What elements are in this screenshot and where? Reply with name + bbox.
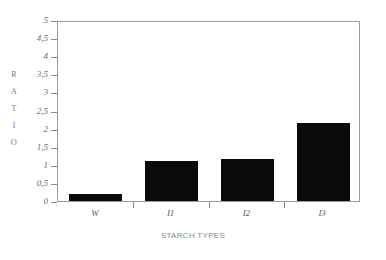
y-axis-tick-label: 2 bbox=[2, 125, 48, 134]
y-axis-tick-label: 3,5 bbox=[2, 70, 48, 79]
x-axis-category-label: I3 bbox=[292, 207, 352, 219]
x-axis-tick bbox=[284, 202, 285, 208]
bar bbox=[145, 161, 198, 201]
y-axis-tick-label: 5 bbox=[2, 16, 48, 25]
y-axis-tick-label: 4,5 bbox=[2, 34, 48, 43]
y-axis-tick-label: 1,5 bbox=[2, 143, 48, 152]
y-axis-tick-label: 2,5 bbox=[2, 107, 48, 116]
x-axis-category-label: W bbox=[65, 207, 125, 219]
y-axis-tick-label: 3 bbox=[2, 88, 48, 97]
x-axis-tick bbox=[209, 202, 210, 208]
bar bbox=[221, 159, 274, 201]
x-axis-tick bbox=[133, 202, 134, 208]
x-axis-title: STARCH TYPES bbox=[0, 231, 386, 240]
y-axis-tick-label: 0,5 bbox=[2, 179, 48, 188]
y-axis-tick-label: 0 bbox=[2, 197, 48, 206]
y-axis-tick bbox=[51, 202, 57, 203]
y-axis-tick-label: 1 bbox=[2, 161, 48, 170]
bar-chart: R A T I O 00,511,522,533,544,55 WI1I2I3 … bbox=[0, 0, 386, 260]
y-axis-tick-labels: 00,511,522,533,544,55 bbox=[0, 0, 48, 260]
bar bbox=[297, 123, 350, 201]
plot-area bbox=[57, 21, 360, 202]
x-axis-category-label: I2 bbox=[216, 207, 276, 219]
y-axis-tick-label: 4 bbox=[2, 52, 48, 61]
x-axis-category-label: I1 bbox=[141, 207, 201, 219]
bar bbox=[69, 194, 122, 201]
